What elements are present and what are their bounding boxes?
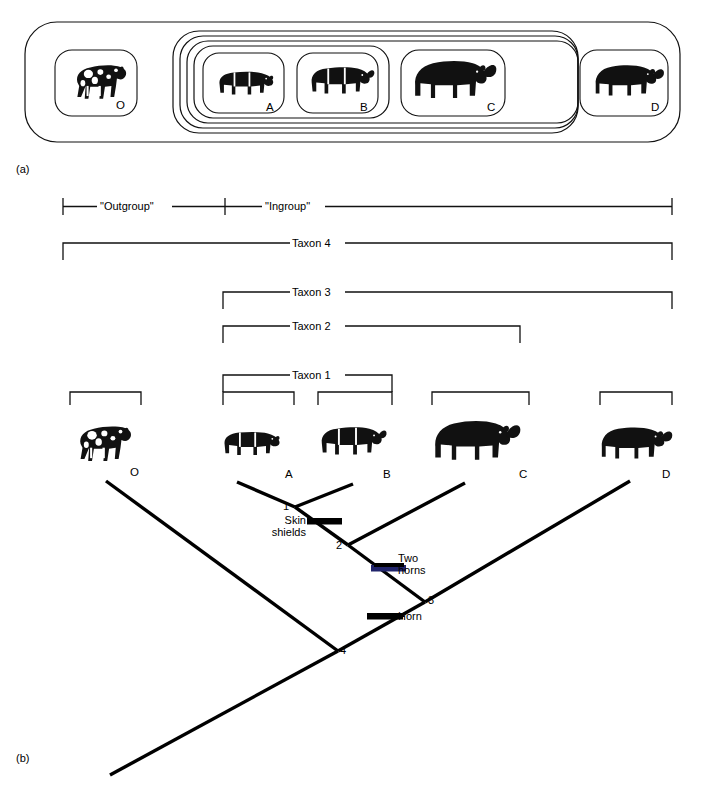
terminal-letter-d: D	[662, 468, 670, 480]
taxon-3-label: Taxon 3	[292, 286, 331, 298]
panel-label-b: (b)	[16, 752, 29, 764]
rhino-silhouette-icon	[225, 432, 280, 455]
branch-b	[295, 484, 353, 507]
branch-o	[106, 481, 338, 651]
node-number-4: 4	[340, 644, 346, 656]
terminal-letter-b: B	[383, 468, 391, 480]
ingroup-label: "Ingroup"	[265, 200, 310, 212]
terminal-brackets	[70, 392, 672, 405]
outgroup-label: "Outgroup"	[100, 200, 154, 212]
horse-silhouette-icon	[80, 426, 131, 461]
rhino-silhouette-icon	[435, 421, 520, 460]
character-bar-skin-shields	[307, 518, 342, 525]
character-label-skin-shields-line2: shields	[262, 526, 306, 538]
character-state-bars	[307, 518, 406, 620]
taxon-bracket-2	[223, 326, 520, 343]
taxon-1-label: Taxon 1	[292, 369, 331, 381]
branch-d	[425, 481, 630, 602]
terminal-letter-a: A	[285, 468, 293, 480]
outgroup-ingroup-bracket	[63, 198, 672, 215]
character-label-horn: Horn	[398, 610, 422, 622]
branch-root	[110, 651, 338, 775]
node-number-2: 2	[336, 539, 342, 551]
cladogram-branches	[106, 481, 630, 775]
rhino-silhouette-icon	[322, 427, 387, 454]
terminal-letter-c: C	[519, 468, 527, 480]
figure-root: O A B C D (a)	[0, 0, 707, 785]
terminal-letter-o: O	[130, 466, 139, 478]
node-number-3: 3	[428, 594, 434, 606]
character-label-skin-shields-line1: Skin	[268, 514, 306, 526]
taxon-4-label: Taxon 4	[292, 237, 331, 249]
character-label-two-horns-line2: horns	[398, 564, 426, 576]
taxon-bracket-4	[63, 243, 672, 260]
taxon-bracket-3	[223, 292, 672, 309]
character-label-two-horns-line1: Two	[398, 552, 418, 564]
branch-c	[348, 483, 465, 545]
taxon-2-label: Taxon 2	[292, 320, 331, 332]
panel-b-graphics	[0, 0, 707, 785]
node-number-1: 1	[283, 500, 289, 512]
rhino-silhouette-icon	[602, 427, 673, 458]
